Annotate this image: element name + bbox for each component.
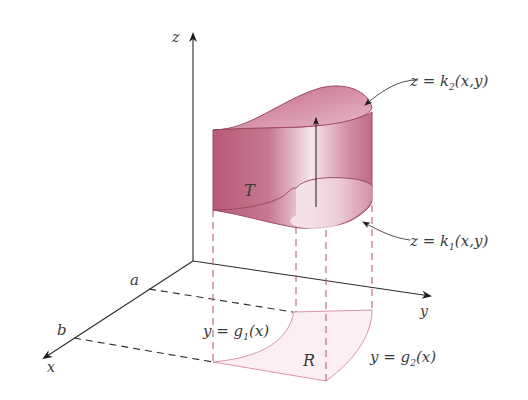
region-label: R (302, 351, 315, 370)
leader-k1 (363, 222, 410, 240)
dash-line-b (74, 338, 213, 362)
z-axis-label: z (171, 29, 180, 45)
solid-label: T (244, 181, 256, 200)
upper-surface-label: z = k2(x,y) (409, 72, 488, 92)
y-axis (193, 261, 430, 296)
triple-integral-diagram: z y x a b T R z = k2(x,y) z = k1(x,y) y … (0, 0, 528, 400)
solid-t (213, 86, 372, 229)
curve-g1-label: y = g1(x) (202, 322, 269, 342)
y-axis-label: y (419, 303, 429, 319)
region-r (213, 310, 372, 381)
x-axis (44, 261, 193, 358)
dash-line-a (149, 289, 293, 312)
x-axis-label: x (47, 359, 55, 375)
bound-b-label: b (57, 321, 67, 339)
bound-a-label: a (130, 271, 139, 289)
curve-g2-label: y = g2(x) (369, 348, 436, 368)
lower-surface-label: z = k1(x,y) (409, 232, 488, 252)
